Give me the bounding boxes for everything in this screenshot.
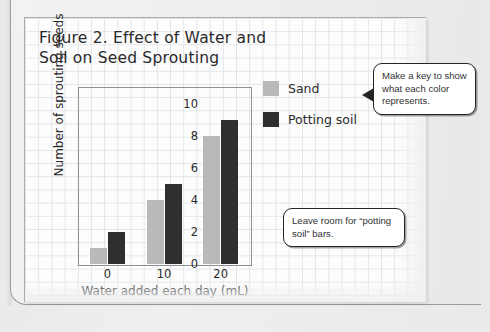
bar-potting-soil-0 bbox=[108, 232, 125, 264]
bar-sand-0 bbox=[90, 248, 107, 264]
legend-swatch-icon bbox=[263, 112, 279, 127]
legend-swatch-icon bbox=[263, 81, 279, 96]
bar-series-container bbox=[79, 88, 249, 264]
legend-label: Sand bbox=[288, 81, 319, 96]
callout-make-a-key: Make a key to show what each color repre… bbox=[373, 63, 476, 115]
x-tick-label: 0 bbox=[84, 267, 130, 281]
x-axis-label: Water added each day (mL) bbox=[60, 284, 270, 298]
x-tick-label: 10 bbox=[141, 267, 187, 281]
bar-potting-soil-10 bbox=[165, 184, 182, 264]
callout-key-text: Make a key to show what each color repre… bbox=[382, 70, 467, 106]
callout-leave-room: Leave room for “potting soil” bars. bbox=[283, 208, 405, 247]
bar-sand-20 bbox=[203, 136, 220, 264]
legend-label: Potting soil bbox=[288, 112, 357, 127]
page-sheet: Figure 2. Effect of Water and Soil on Se… bbox=[0, 0, 490, 332]
bar-potting-soil-20 bbox=[221, 120, 238, 264]
y-axis-label: Number of sprouting seeds bbox=[52, 7, 66, 183]
chart-legend: SandPotting soil bbox=[263, 81, 357, 143]
callout-room-text: Leave room for “potting soil” bars. bbox=[292, 215, 391, 239]
legend-item: Sand bbox=[263, 81, 357, 96]
grid-paper-panel: Figure 2. Effect of Water and Soil on Se… bbox=[24, 17, 426, 302]
x-tick-label: 20 bbox=[198, 267, 244, 281]
plot-area: Number of sprouting seeds 0246810 01020 … bbox=[25, 18, 426, 302]
legend-item: Potting soil bbox=[263, 112, 357, 127]
callout-tail-icon bbox=[362, 88, 374, 102]
bar-sand-10 bbox=[147, 200, 164, 264]
